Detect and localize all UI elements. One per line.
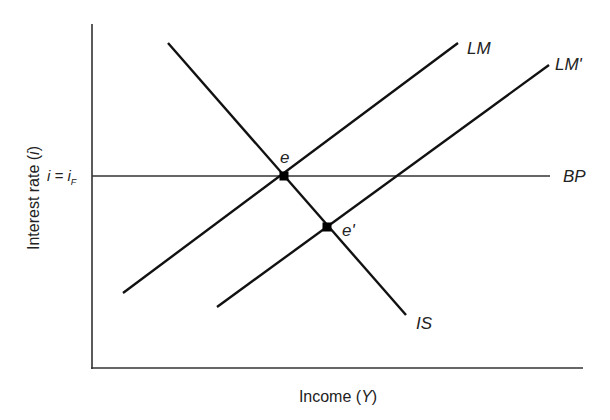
y-tick-label: i = iF <box>47 167 77 187</box>
point-e <box>280 172 289 181</box>
is-label: IS <box>416 314 433 333</box>
x-axis-label: Income (Y) <box>299 388 377 405</box>
point-e-prime <box>323 223 332 232</box>
lm-prime-label: LM' <box>555 55 583 74</box>
y-axis-label: Interest rate (i) <box>25 146 42 250</box>
e-prime-label: e' <box>342 221 355 240</box>
bp-label: BP <box>563 167 586 186</box>
lm-label: LM <box>467 39 491 58</box>
is-lm-bp-chart: LM LM' IS BP e e' i = iF Interest rate (… <box>0 0 610 420</box>
e-label: e <box>280 148 289 167</box>
